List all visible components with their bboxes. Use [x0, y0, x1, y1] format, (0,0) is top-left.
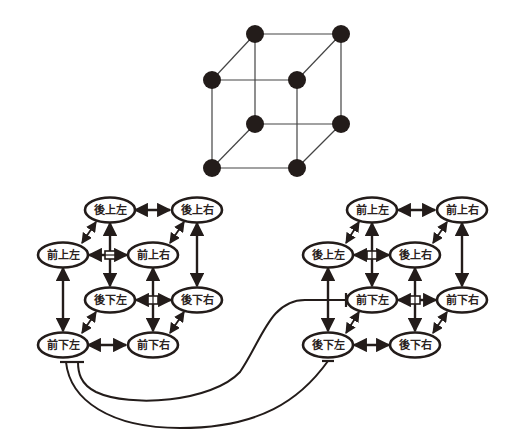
graph-node: 前上左 — [347, 198, 397, 223]
cube-vertex — [288, 159, 306, 177]
edge-bdr-fdr — [433, 312, 447, 333]
graph-node: 後上左 — [85, 198, 135, 223]
edge-bdl-fdl — [346, 312, 359, 333]
edge-ful-bul — [82, 222, 96, 243]
node-label: 後上右 — [399, 248, 432, 262]
node-label: 前上左 — [47, 248, 80, 262]
cube-vertex — [246, 25, 264, 43]
graph-node: 後下右 — [390, 333, 440, 358]
cube-vertex — [288, 71, 306, 89]
graph-node: 前下左 — [38, 333, 88, 358]
graph-node: 前下右 — [128, 333, 178, 358]
right-graph-nodes: 前上左前上右後上左後上右前下左前下右後下左後下右 — [303, 198, 487, 358]
node-label: 前上右 — [446, 203, 479, 217]
graph-node: 前上右 — [437, 198, 487, 223]
graph-node: 後下右 — [172, 288, 222, 313]
graph-node: 後下左 — [85, 288, 135, 313]
right-graph-edges — [328, 210, 462, 345]
node-label: 後上左 — [94, 203, 127, 217]
cube-vertex — [203, 159, 221, 177]
graph-node: 前上右 — [128, 243, 178, 268]
cube-edge — [212, 124, 255, 168]
cube-vertex — [246, 115, 264, 133]
node-label: 前上右 — [137, 248, 170, 262]
edge-bur-fur — [433, 222, 447, 243]
cube-edge — [212, 34, 255, 80]
node-label: 後下右 — [399, 338, 432, 352]
edge-fur-bur — [170, 222, 184, 243]
graph-node: 後上右 — [172, 198, 222, 223]
left-graph-nodes: 後上左後上右前上左前上右後下左後下右前下左前下右 — [38, 198, 222, 358]
node-label: 前下右 — [137, 338, 170, 352]
node-label: 前下右 — [446, 293, 479, 307]
graph-node: 後上左 — [303, 243, 353, 268]
node-label: 後上右 — [181, 203, 214, 217]
cube-vertex — [332, 25, 350, 43]
node-label: 前上左 — [356, 203, 389, 217]
edge-fdr-bdr — [170, 312, 184, 333]
node-label: 後下左 — [94, 293, 127, 307]
node-label: 後下左 — [312, 338, 345, 352]
graph-node: 前下左 — [347, 288, 397, 313]
node-label: 後上左 — [312, 248, 345, 262]
wireframe-cube — [203, 25, 350, 177]
cube-edge — [297, 124, 341, 168]
cube-vertex — [332, 115, 350, 133]
edge-fdl-bdl — [82, 312, 96, 333]
node-label: 前下左 — [47, 338, 80, 352]
graph-node: 後上右 — [390, 243, 440, 268]
left-graph-edges — [63, 210, 197, 345]
necker-cube-diagram: 後上左後上右前上左前上右後下左後下右前下左前下右 前上左前上右後上左後上右前下左… — [0, 0, 525, 447]
graph-node: 後下左 — [303, 333, 353, 358]
node-label: 後下右 — [181, 293, 214, 307]
cube-edge — [297, 34, 341, 80]
edge-bul-ful — [346, 222, 359, 243]
graph-node: 前下右 — [437, 288, 487, 313]
node-label: 前下左 — [356, 293, 389, 307]
cube-vertex — [203, 71, 221, 89]
graph-node: 前上左 — [38, 243, 88, 268]
